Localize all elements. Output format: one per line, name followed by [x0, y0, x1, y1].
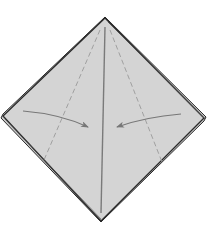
- origami-diagram: [0, 0, 208, 234]
